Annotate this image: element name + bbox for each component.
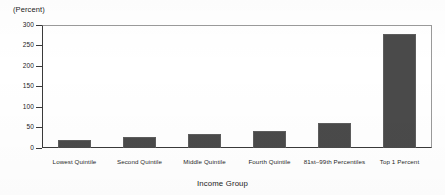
y-axis-tick-label: 0: [30, 144, 34, 151]
bar-slot: [188, 25, 222, 148]
bar: [58, 140, 92, 148]
y-axis-tick-label: 150: [23, 82, 34, 89]
y-axis-unit-label: (Percent): [13, 5, 45, 14]
x-axis-category-label: 81st–99th Percentiles: [302, 158, 367, 165]
bar: [253, 131, 287, 148]
bar-slot: [253, 25, 287, 148]
bar-slot: [318, 25, 352, 148]
y-axis-tick-label: 300: [23, 21, 34, 28]
x-axis-category-label: Top 1 Percent: [367, 158, 432, 165]
bar-slot: [58, 25, 92, 148]
bars-layer: [42, 25, 432, 148]
x-axis-category-label: Second Quintile: [107, 158, 172, 165]
bar-chart-figure: (Percent) 050100150200250300 Lowest Quin…: [0, 0, 445, 195]
y-axis-tick-label: 50: [27, 123, 34, 130]
bar: [123, 137, 157, 148]
x-axis-title: Income Group: [0, 179, 445, 188]
bar: [318, 123, 352, 148]
bar-slot: [123, 25, 157, 148]
y-axis-tick-label: 200: [23, 62, 34, 69]
x-axis-category-label: Fourth Quintile: [237, 158, 302, 165]
y-axis-tick-label: 250: [23, 41, 34, 48]
bar-slot: [383, 25, 417, 148]
x-axis-category-label: Middle Quintile: [172, 158, 237, 165]
x-axis-category-label: Lowest Quintile: [42, 158, 107, 165]
bar: [188, 134, 222, 148]
y-axis-tick-label: 100: [23, 103, 34, 110]
bar: [383, 34, 417, 148]
